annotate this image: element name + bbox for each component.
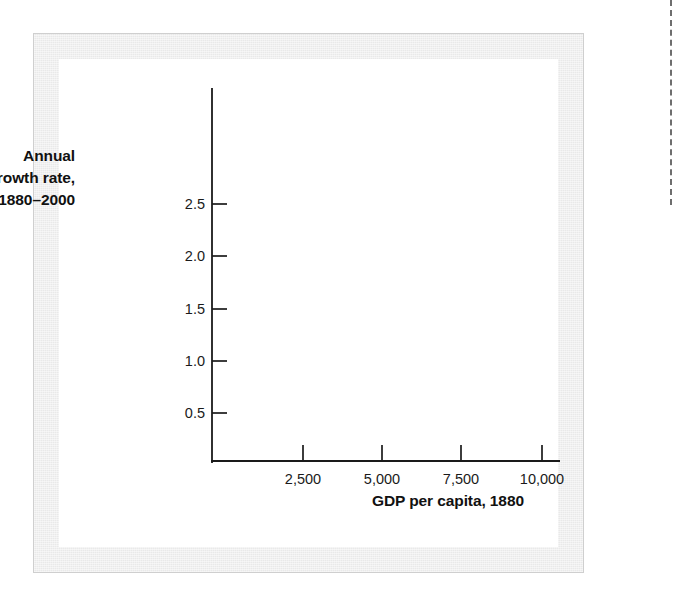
x-axis-title: GDP per capita, 1880 (372, 492, 524, 510)
page-root: Annual growth rate, 1880–2000 2.5 2.0 1.… (0, 0, 678, 605)
y-tick-label-1.5: 1.5 (147, 301, 205, 317)
page-edge-dashed-rule (670, 0, 672, 205)
y-axis-title-line-1: Annual (0, 145, 75, 167)
x-tick-label-5000: 5,000 (342, 471, 422, 487)
y-tick-label-2.5: 2.5 (147, 196, 205, 212)
y-axis-title-line-2: growth rate, (0, 167, 75, 189)
figure-inner-canvas: Annual growth rate, 1880–2000 2.5 2.0 1.… (59, 59, 558, 547)
y-tick-label-0.5: 0.5 (147, 405, 205, 421)
y-tick-label-2.0: 2.0 (147, 248, 205, 264)
x-tick-label-10000: 10,000 (502, 471, 582, 487)
y-axis-title: Annual growth rate, 1880–2000 (0, 145, 75, 211)
plot-area: Annual growth rate, 1880–2000 2.5 2.0 1.… (59, 59, 558, 547)
figure-frame: Annual growth rate, 1880–2000 2.5 2.0 1.… (33, 33, 584, 573)
y-axis-title-line-3: 1880–2000 (0, 189, 75, 211)
x-tick-label-7500: 7,500 (421, 471, 501, 487)
x-tick-label-2500: 2,500 (263, 471, 343, 487)
y-tick-label-1.0: 1.0 (147, 353, 205, 369)
